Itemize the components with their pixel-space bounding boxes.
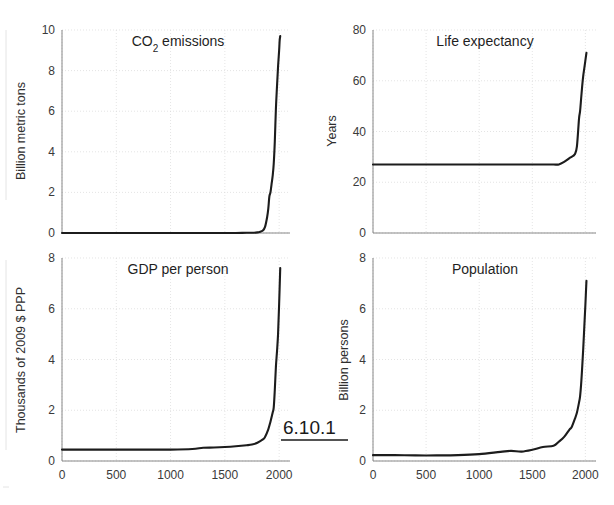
- panel-life-ytick-label: 80: [353, 23, 367, 37]
- panel-gdp-xtick-label: 2000: [266, 468, 293, 482]
- scan-artifact-lines: [3, 30, 9, 487]
- panel-co2-title: CO2 emissions: [132, 33, 225, 54]
- panel-gdp-xtick-label: 0: [59, 468, 66, 482]
- panel-co2-ytick-label: 4: [48, 145, 55, 159]
- panel-gdp-xtick-label: 500: [106, 468, 126, 482]
- panel-life-curve: [373, 53, 586, 165]
- panel-gdp-xtick-label: 1500: [212, 468, 239, 482]
- panel-life-gridlines: [373, 30, 596, 233]
- panel-pop-xtick-label: 1500: [519, 468, 546, 482]
- panel-pop-ytick-label: 0: [359, 454, 366, 468]
- figure-number-block: 6.10.1: [281, 417, 348, 440]
- panel-co2-ytick-label: 8: [48, 64, 55, 78]
- panel-life-ytick-label: 60: [353, 74, 367, 88]
- panel-pop-xtick-labels: 0500100015002000: [370, 468, 599, 482]
- panel-gdp-title: GDP per person: [128, 261, 229, 277]
- panel-gdp-ytick-label: 6: [48, 302, 55, 316]
- panel-gdp-ytick-labels: 02468: [48, 251, 55, 468]
- panel-life-title: Life expectancy: [436, 33, 533, 49]
- panel-gdp-xtick-labels: 0500100015002000: [59, 468, 293, 482]
- panel-co2-ytick-label: 2: [48, 185, 55, 199]
- panel-gdp-ytick-label: 2: [48, 403, 55, 417]
- panel-co2-gridlines: [62, 30, 290, 233]
- figure-number-label: 6.10.1: [283, 417, 336, 438]
- panel-pop-xtick-label: 0: [370, 468, 377, 482]
- panel-life-expectancy: 020406080 Life expectancy Years: [325, 23, 596, 240]
- panel-gdp-ylabel: Thousands of 2009 $ PPP: [14, 287, 28, 433]
- panel-life-ytick-label: 0: [359, 226, 366, 240]
- panel-pop-gridlines: [373, 258, 596, 461]
- panel-life-ytick-label: 20: [353, 175, 367, 189]
- panel-pop-ytick-label: 2: [359, 403, 366, 417]
- panel-pop-xtick-label: 2000: [572, 468, 599, 482]
- panel-pop-xtick-label: 1000: [466, 468, 493, 482]
- panel-pop-curve: [373, 281, 586, 456]
- panel-co2-ytick-label: 10: [42, 23, 56, 37]
- panel-pop-ylabel: Billion persons: [337, 319, 351, 400]
- panel-pop-ytick-label: 6: [359, 302, 366, 316]
- four-panel-chart-figure: 0246810 CO2 emissions Billion metric ton…: [0, 0, 614, 505]
- panel-co2-ytick-label: 6: [48, 104, 55, 118]
- panel-population: 02468 0500100015002000 Population Billio…: [337, 251, 599, 482]
- panel-life-ytick-labels: 020406080: [353, 23, 367, 240]
- panel-gdp-xtick-label: 1000: [157, 468, 184, 482]
- panel-gdp-ytick-label: 4: [48, 353, 55, 367]
- panel-pop-ytick-label: 8: [359, 251, 366, 265]
- panel-gdp-gridlines: [62, 258, 290, 461]
- panel-pop-ytick-label: 4: [359, 353, 366, 367]
- panel-gdp-per-person: 02468 0500100015002000 GDP per person Th…: [14, 251, 293, 482]
- panel-co2-curve: [62, 36, 280, 233]
- panel-co2-axes: [62, 30, 290, 233]
- panel-co2-ytick-labels: 0246810: [42, 23, 56, 240]
- panel-gdp-ytick-label: 0: [48, 454, 55, 468]
- figure-container: 0246810 CO2 emissions Billion metric ton…: [0, 0, 614, 505]
- panel-pop-title: Population: [452, 261, 518, 277]
- panel-gdp-ytick-label: 8: [48, 251, 55, 265]
- panel-co2-ylabel: Billion metric tons: [14, 82, 28, 180]
- panel-pop-xtick-label: 500: [416, 468, 436, 482]
- panel-co2-ytick-label: 0: [48, 226, 55, 240]
- panel-co2-emissions: 0246810 CO2 emissions Billion metric ton…: [14, 23, 290, 240]
- panel-life-ytick-label: 40: [353, 125, 367, 139]
- panel-gdp-curve: [62, 268, 280, 449]
- panel-life-ylabel: Years: [325, 115, 339, 147]
- panel-pop-ytick-labels: 02468: [359, 251, 366, 468]
